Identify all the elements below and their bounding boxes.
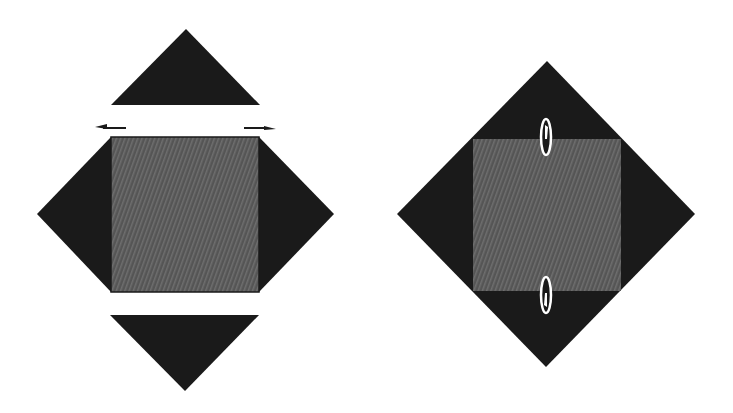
diagram-svg xyxy=(0,0,733,413)
right-triangle xyxy=(259,137,334,292)
top-rotation-marker-icon xyxy=(541,119,551,155)
right-arrow xyxy=(244,126,276,130)
bottom-rotation-marker-icon xyxy=(541,277,551,313)
inner-square xyxy=(473,139,621,291)
left-arrow xyxy=(95,124,126,129)
arrowhead-right-icon xyxy=(264,126,276,130)
center-square xyxy=(111,137,259,292)
diagram-canvas xyxy=(0,0,733,413)
bottom-triangle xyxy=(110,315,259,391)
left-panel xyxy=(37,29,334,391)
top-triangle xyxy=(111,29,260,105)
left-triangle xyxy=(37,137,111,292)
arrowhead-left-icon xyxy=(95,124,107,129)
right-panel xyxy=(397,61,695,367)
